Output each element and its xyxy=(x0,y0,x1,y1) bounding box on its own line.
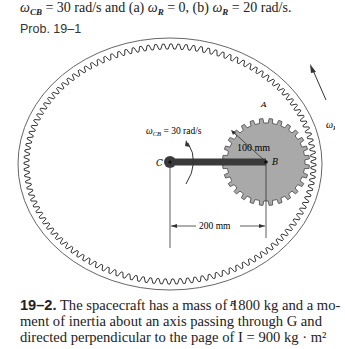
problem-19-2-line-2: ment of inertia about an axis passing th… xyxy=(20,314,345,330)
problem-19-2-line-1: 19–2. The spacecraft has a mass of 1800 … xyxy=(20,298,345,314)
omega-cb-label: ωCB = 30 rad/s xyxy=(146,126,202,137)
radius-label: 100 mm xyxy=(237,142,270,153)
label-b: B xyxy=(271,157,278,167)
problem-number: 19–2. xyxy=(20,297,57,313)
rotation-arrow-r xyxy=(312,68,326,100)
problem-text: The spacecraft has a mass of 1800 kg and… xyxy=(57,297,341,313)
label-a: A xyxy=(260,100,267,109)
arm-cb xyxy=(170,159,266,166)
pin-b xyxy=(264,160,268,164)
distance-label: 200 mm xyxy=(199,221,231,231)
omega-r-label: ωR xyxy=(326,119,335,132)
problem-19-2-line-3: directed perpendicular to the page of I … xyxy=(20,330,345,346)
label-c: C xyxy=(156,158,163,168)
